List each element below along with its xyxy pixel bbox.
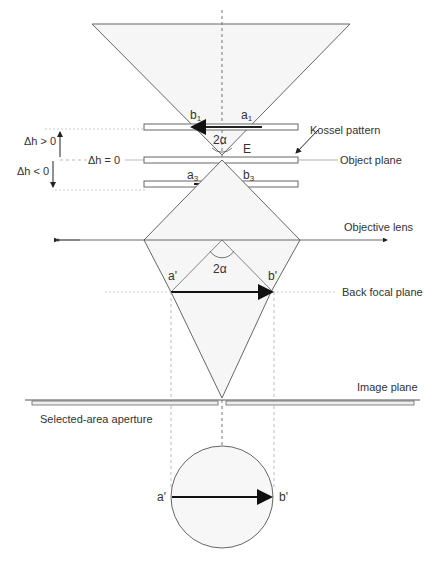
label-kossel-pattern: Kossel pattern (310, 125, 380, 136)
label-2alpha-top: 2α (213, 134, 227, 146)
diagram-graphics (0, 0, 440, 568)
label-a3: a3 (187, 169, 198, 183)
label-2alpha-mid: 2α (213, 263, 227, 275)
label-selected-area-aperture: Selected-area aperture (40, 414, 153, 425)
label-object-plane: Object plane (340, 155, 402, 166)
label-a-prime-bottom: a' (157, 491, 166, 503)
label-b-prime-bottom: b' (279, 491, 288, 503)
aperture-right (226, 401, 414, 405)
label-b1: b1 (190, 109, 201, 123)
label-a1: a1 (241, 109, 252, 123)
label-dh-positive: Δh > 0 (24, 136, 56, 147)
label-dh-negative: Δh < 0 (17, 166, 49, 177)
label-b-prime-mid: b' (268, 270, 277, 282)
aperture-left (32, 401, 218, 405)
label-b3: b3 (243, 169, 254, 183)
label-image-plane: Image plane (357, 382, 418, 393)
label-objective-lens: Objective lens (344, 222, 413, 233)
label-E: E (243, 143, 251, 155)
label-a-prime-mid: a' (168, 270, 177, 282)
kossel-diagram: Kossel pattern Object plane Objective le… (0, 0, 440, 568)
label-back-focal-plane: Back focal plane (342, 287, 423, 298)
label-dh-zero: Δh = 0 (88, 155, 120, 166)
